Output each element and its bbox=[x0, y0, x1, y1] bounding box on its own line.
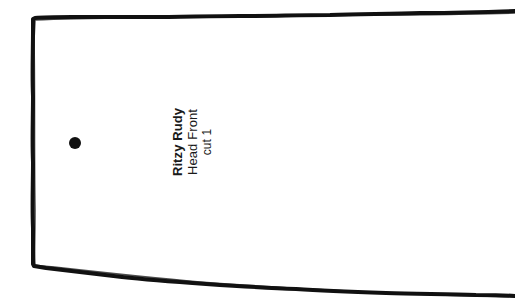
pattern-outline-texture bbox=[34, 13, 515, 297]
pattern-drawing bbox=[0, 0, 515, 305]
pattern-page: Ritzy Rudy Head Front cut 1 bbox=[0, 0, 515, 305]
placement-dot-icon bbox=[69, 137, 81, 149]
pattern-outline-path bbox=[33, 11, 515, 296]
